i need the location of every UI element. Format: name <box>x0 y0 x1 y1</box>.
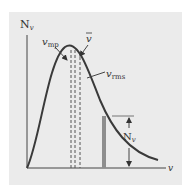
speed-markers <box>71 50 80 168</box>
vmp-label: vmp <box>42 36 59 49</box>
vrms-label: vrms <box>106 68 126 81</box>
x-axis-label: v <box>168 163 173 173</box>
distribution-curve <box>27 45 158 168</box>
y-axis-label: Nv <box>20 18 34 32</box>
vbar-label: v <box>86 33 92 44</box>
nv-bar <box>102 116 106 168</box>
nv-label: Nv <box>123 131 136 144</box>
distribution-diagram: Nv v vmp v vrms Nv <box>0 0 190 194</box>
